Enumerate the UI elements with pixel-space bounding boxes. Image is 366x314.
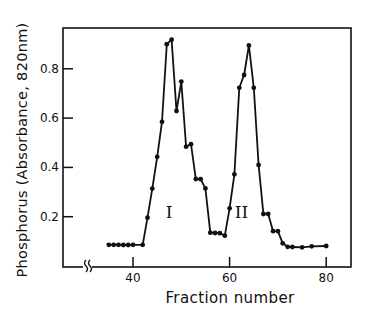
data-point <box>324 244 329 249</box>
data-point <box>145 215 150 220</box>
plot-area: 0.20.40.60.8406080III <box>0 0 366 314</box>
data-point <box>179 79 184 84</box>
data-point <box>271 229 276 234</box>
data-point <box>174 109 179 114</box>
data-point <box>261 212 266 217</box>
data-point <box>247 43 252 48</box>
data-point <box>116 242 121 247</box>
data-line <box>109 40 326 248</box>
data-point <box>276 229 281 234</box>
data-point <box>251 85 256 90</box>
data-point <box>150 186 155 191</box>
data-point <box>106 242 111 247</box>
data-point <box>280 241 285 246</box>
data-point <box>242 73 247 78</box>
data-point <box>169 37 174 42</box>
data-point <box>208 230 213 235</box>
data-point <box>203 186 208 191</box>
x-tick-label: 40 <box>125 271 140 285</box>
data-point <box>184 144 189 149</box>
peak-label: I <box>166 202 173 222</box>
chart: 0.20.40.60.8406080III Phosphorus (Absorb… <box>0 0 366 314</box>
x-tick-label: 80 <box>319 271 334 285</box>
data-point <box>164 42 169 47</box>
data-point <box>227 206 232 211</box>
data-point <box>237 85 242 90</box>
data-point <box>285 244 290 249</box>
data-point <box>213 231 218 236</box>
data-point <box>140 242 145 247</box>
data-point <box>126 243 131 248</box>
data-point <box>155 154 160 159</box>
data-point <box>290 245 295 250</box>
data-point <box>121 243 126 248</box>
data-point <box>189 142 194 147</box>
y-tick-label: 0.2 <box>40 210 59 224</box>
x-axis-label: Fraction number <box>165 289 294 307</box>
x-tick-label: 60 <box>222 271 237 285</box>
data-point <box>222 233 227 238</box>
data-point <box>160 119 165 124</box>
data-point <box>193 177 198 182</box>
y-tick-label: 0.6 <box>40 111 59 125</box>
data-point <box>218 231 223 236</box>
data-point <box>232 172 237 177</box>
data-point <box>111 242 116 247</box>
peak-label: II <box>235 202 248 222</box>
data-point <box>309 244 314 249</box>
y-tick-label: 0.8 <box>40 62 59 76</box>
plot-frame <box>63 28 351 267</box>
data-point <box>131 242 136 247</box>
data-point <box>198 177 203 182</box>
data-point <box>256 163 261 168</box>
y-tick-label: 0.4 <box>40 160 59 174</box>
data-point <box>266 212 271 217</box>
data-point <box>300 245 305 250</box>
y-axis-label: Phosphorus (Absorbance, 820nm) <box>14 22 30 277</box>
